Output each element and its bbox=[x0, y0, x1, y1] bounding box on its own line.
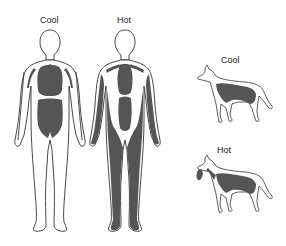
blood-flow-diagram bbox=[0, 0, 286, 246]
label-human-hot: Hot bbox=[117, 16, 131, 25]
label-dog-cool: Cool bbox=[221, 56, 240, 65]
blood-periphery-hot bbox=[91, 64, 159, 230]
label-human-cool: Cool bbox=[40, 16, 59, 25]
label-dog-hot: Hot bbox=[217, 146, 231, 155]
